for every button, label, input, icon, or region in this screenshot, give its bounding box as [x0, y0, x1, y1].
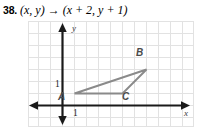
worksheet-problem-figure: 38.(x, y) → (x + 2, y + 1): [0, 0, 201, 130]
vertex-label-c: C: [122, 92, 129, 102]
coordinate-plane-figure: y x 1 1 A B C: [28, 21, 194, 127]
x-axis-label: x: [184, 109, 188, 118]
y-axis-unit-tick-label: 1: [55, 80, 60, 89]
vertex-label-b: B: [136, 48, 143, 58]
problem-number: 38.: [3, 4, 17, 16]
y-axis-label: y: [72, 24, 76, 33]
axes-and-shape: [28, 21, 194, 127]
transformation-rule: (x, y) → (x + 2, y + 1): [20, 3, 127, 17]
x-axis-arrow-left: [29, 101, 38, 109]
y-axis-arrow-up: [58, 23, 66, 32]
x-axis-unit-tick-label: 1: [73, 109, 78, 118]
y-axis-arrow-down: [58, 116, 66, 125]
vertex-label-a: A: [58, 92, 65, 102]
problem-header: 38.(x, y) → (x + 2, y + 1): [3, 2, 199, 18]
triangle-abc: [75, 70, 147, 94]
